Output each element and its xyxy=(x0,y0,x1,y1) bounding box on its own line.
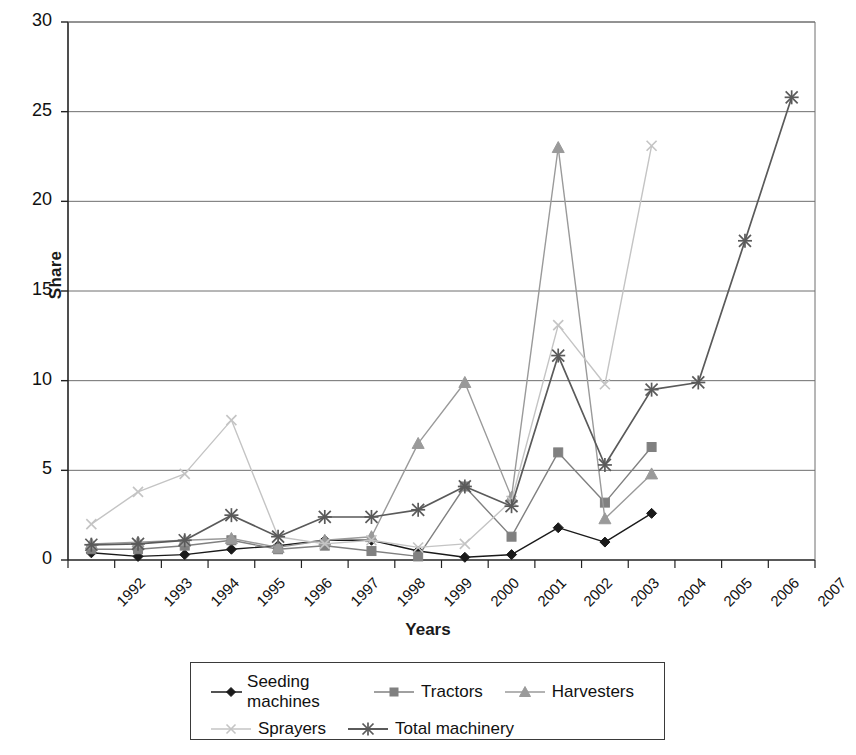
legend-item-label: Total machinery xyxy=(395,719,514,739)
data-point-marker-asterisk xyxy=(84,538,98,552)
legend-item[interactable]: Sprayers xyxy=(209,719,326,739)
square-icon xyxy=(367,547,376,556)
data-point-marker-square xyxy=(390,688,398,696)
diamond-icon xyxy=(600,537,610,547)
data-point-marker-square xyxy=(507,532,516,541)
data-point-marker-diamond xyxy=(507,550,517,560)
legend-item-label: Seeding machines xyxy=(247,672,352,712)
data-point-marker-square xyxy=(647,443,656,452)
data-point-marker-diamond xyxy=(600,537,610,547)
data-point-marker-diamond xyxy=(180,550,190,560)
data-point-marker-asterisk xyxy=(362,723,375,736)
diamond-icon xyxy=(227,688,236,697)
data-point-marker-diamond xyxy=(227,688,236,697)
square-icon xyxy=(390,688,398,696)
data-point-marker-x xyxy=(133,487,143,497)
data-point-marker-asterisk xyxy=(224,508,238,522)
diamond-icon xyxy=(460,552,470,562)
data-point-marker-asterisk xyxy=(178,533,192,547)
data-point-marker-x xyxy=(86,519,96,529)
square-icon xyxy=(600,498,609,507)
series-line-3 xyxy=(91,146,651,548)
legend-item[interactable]: Total machinery xyxy=(346,719,514,739)
data-point-marker-asterisk xyxy=(645,383,659,397)
square-icon xyxy=(507,532,516,541)
data-point-marker-triangle xyxy=(552,142,564,153)
diamond-icon xyxy=(553,523,563,533)
legend-item-label: Sprayers xyxy=(258,719,326,739)
data-point-marker-asterisk xyxy=(691,375,705,389)
data-point-marker-square xyxy=(367,547,376,556)
diamond-icon xyxy=(226,544,236,554)
data-point-marker-asterisk xyxy=(738,234,752,248)
plot-area xyxy=(0,0,856,755)
data-point-marker-asterisk xyxy=(411,503,425,517)
data-point-marker-asterisk xyxy=(271,530,285,544)
data-point-marker-diamond xyxy=(226,544,236,554)
data-point-marker-asterisk xyxy=(318,510,332,524)
square-icon xyxy=(554,448,563,457)
data-point-marker-square xyxy=(600,498,609,507)
legend-key-diamond xyxy=(209,684,242,700)
data-point-marker-triangle xyxy=(646,468,658,479)
square-icon xyxy=(414,552,423,561)
data-point-marker-diamond xyxy=(460,552,470,562)
triangle-icon xyxy=(459,376,471,387)
data-point-marker-asterisk xyxy=(598,458,612,472)
triangle-icon xyxy=(646,468,658,479)
data-point-marker-asterisk xyxy=(505,499,519,513)
data-point-marker-triangle xyxy=(459,376,471,387)
data-point-marker-diamond xyxy=(553,523,563,533)
legend-key-x xyxy=(209,721,253,737)
chart-legend: Seeding machinesTractorsHarvesters Spray… xyxy=(190,662,665,740)
diamond-icon xyxy=(507,550,517,560)
legend-item-label: Harvesters xyxy=(552,682,634,702)
legend-item[interactable]: Seeding machines xyxy=(209,672,352,712)
data-point-marker-asterisk xyxy=(131,537,145,551)
legend-row-1: Seeding machinesTractorsHarvesters xyxy=(209,672,654,712)
series-line-2 xyxy=(91,148,651,548)
legend-item-label: Tractors xyxy=(421,682,483,702)
legend-item[interactable]: Tractors xyxy=(372,682,483,702)
data-point-marker-x xyxy=(226,415,236,425)
legend-row-2: SprayersTotal machinery xyxy=(209,719,654,739)
data-point-marker-asterisk xyxy=(551,349,565,363)
legend-key-triangle xyxy=(503,684,547,700)
diamond-icon xyxy=(180,550,190,560)
square-icon xyxy=(647,443,656,452)
data-point-marker-diamond xyxy=(647,508,657,518)
data-point-marker-x xyxy=(553,320,563,330)
data-point-marker-asterisk xyxy=(458,479,472,493)
triangle-icon xyxy=(552,142,564,153)
chart-figure: Share Years 051015202530 199219931994199… xyxy=(0,0,856,755)
legend-key-square xyxy=(372,684,416,700)
data-point-marker-asterisk xyxy=(364,510,378,524)
data-point-marker-square xyxy=(554,448,563,457)
data-point-marker-asterisk xyxy=(785,90,799,104)
legend-item[interactable]: Harvesters xyxy=(503,682,634,702)
data-point-marker-square xyxy=(414,552,423,561)
legend-key-asterisk xyxy=(346,721,390,737)
diamond-icon xyxy=(647,508,657,518)
series-line-4 xyxy=(91,97,791,545)
